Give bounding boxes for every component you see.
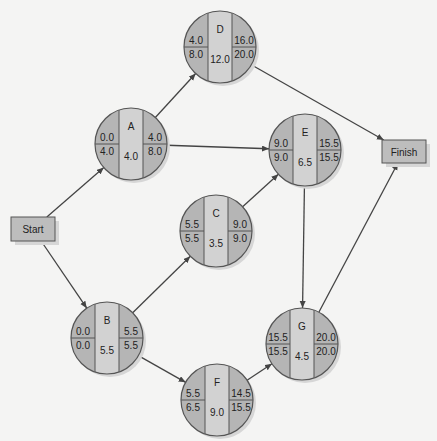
activity-node-b: B5.50.00.05.55.5 [71,302,146,377]
edge-b-to-f [138,356,185,383]
activity-duration: 4.5 [295,351,309,362]
latest-start: 5.5 [185,233,199,244]
latest-finish: 15.5 [319,152,339,163]
latest-start: 0.0 [76,340,90,351]
edge-a-to-e [167,145,269,149]
latest-start: 8.0 [189,49,203,60]
edge-b-to-c [133,256,191,313]
edge-start-to-a [47,168,104,217]
activity-duration: 12.0 [210,54,230,65]
node-center-column [290,308,314,380]
earliest-finish: 4.0 [148,132,162,143]
node-center-column [95,302,119,374]
latest-finish: 8.0 [148,146,162,157]
activity-duration: 5.5 [100,345,114,356]
network-diagram: StartFinish D12.04.08.016.020.0A4.00.04.… [0,0,437,441]
activity-node-e: E6.59.09.015.515.5 [269,114,344,189]
finish-box: Finish [382,140,430,167]
latest-finish: 5.5 [124,340,138,351]
activity-node-f: F9.05.56.514.515.5 [181,364,256,439]
latest-finish: 15.5 [231,402,251,413]
activity-id: C [212,208,219,219]
earliest-start: 0.0 [76,326,90,337]
latest-start: 6.5 [186,402,200,413]
earliest-finish: 5.5 [124,326,138,337]
activity-id: A [128,121,135,132]
earliest-finish: 16.0 [234,35,254,46]
edge-a-to-d [155,74,195,118]
activity-id: F [214,377,220,388]
latest-finish: 20.0 [316,346,336,357]
earliest-start: 4.0 [189,35,203,46]
activity-id: D [216,24,223,35]
edge-f-to-g [247,364,272,380]
edge-e-to-g [303,186,305,308]
activity-id: G [298,321,306,332]
earliest-start: 9.0 [274,138,288,149]
node-center-column [208,11,232,83]
latest-start: 15.5 [268,346,288,357]
edge-c-to-e [243,174,279,207]
earliest-start: 0.0 [100,132,114,143]
latest-start: 9.0 [274,152,288,163]
finish-label: Finish [391,147,418,158]
activity-duration: 4.0 [124,151,138,162]
activity-duration: 3.5 [209,238,223,249]
node-center-column [205,364,229,436]
earliest-finish: 9.0 [233,219,247,230]
edge-g-to-finish [319,163,398,312]
nodes-layer: D12.04.08.016.020.0A4.00.04.04.08.0E6.59… [71,11,344,439]
earliest-finish: 20.0 [316,332,336,343]
activity-node-a: A4.00.04.04.08.0 [95,108,170,183]
activity-node-g: G4.515.515.520.020.0 [266,308,341,383]
node-center-column [204,195,228,267]
activity-duration: 9.0 [210,407,224,418]
node-center-column [293,114,317,186]
earliest-start: 5.5 [185,219,199,230]
latest-finish: 9.0 [233,233,247,244]
latest-start: 4.0 [100,146,114,157]
start-box: Start [11,217,59,245]
activity-id: B [104,315,111,326]
activity-id: E [302,127,309,138]
earliest-finish: 15.5 [319,138,339,149]
earliest-start: 5.5 [186,388,200,399]
latest-finish: 20.0 [234,49,254,60]
edge-start-to-b [41,241,87,308]
earliest-start: 15.5 [268,332,288,343]
earliest-finish: 14.5 [231,388,251,399]
start-label: Start [22,224,43,235]
activity-duration: 6.5 [298,157,312,168]
node-center-column [119,108,143,180]
